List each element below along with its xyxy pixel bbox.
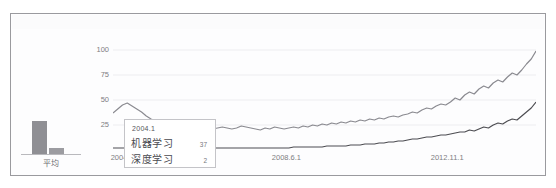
panel-top-band [12,15,544,29]
tooltip-series-name: 机器学习 [131,135,173,150]
tooltip-row-machine-learning: 机器学习 37 [131,135,209,150]
average-bar-chart[interactable]: 平均 [19,110,83,168]
y-axis-ticks: 100755025 [85,36,111,170]
tooltip-series-value: 2 [203,157,209,164]
average-bar-plot [19,114,83,154]
y-tick-label: 25 [101,121,109,129]
x-tick-label: 2012.11.1 [431,154,464,162]
chart-tooltip: 2004.1 机器学习 37 深度学习 2 [124,119,216,168]
bar-machine-learning[interactable] [32,121,47,154]
y-tick-label: 100 [96,46,109,54]
chart-panel: 平均 100755025 2004.1.12008.6.12012.11.1 2… [10,13,546,176]
average-bar-category-label: 平均 [19,157,83,168]
tooltip-title: 2004.1 [132,125,209,132]
screenshot-root: 平均 100755025 2004.1.12008.6.12012.11.1 2… [0,0,556,188]
tooltip-series-name: 深度学习 [131,151,173,166]
gridlines [113,50,536,125]
tooltip-series-value: 37 [200,141,209,148]
y-tick-label: 50 [101,96,109,104]
y-tick-label: 75 [101,71,109,79]
tooltip-row-deep-learning: 深度学习 2 [131,151,209,166]
average-bar-baseline [21,154,81,155]
x-tick-label: 2008.6.1 [272,154,301,162]
